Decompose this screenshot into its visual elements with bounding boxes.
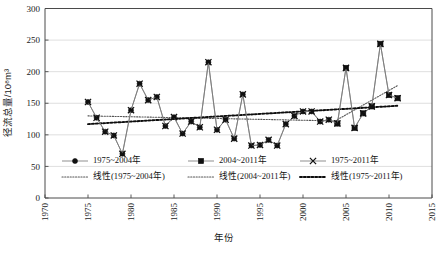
y-tick-label: 250 — [27, 35, 41, 45]
legend-item-label: 线性(1975~2011年) — [331, 170, 403, 181]
x-tick-label: 1975 — [83, 203, 93, 222]
legend-item-label: 线性(1975~2004年) — [93, 170, 165, 181]
series-polyline — [88, 44, 398, 154]
x-tick-label: 1985 — [169, 203, 179, 222]
x-tick-label: 1995 — [255, 203, 265, 222]
x-tick-label: 1990 — [212, 203, 222, 222]
data-point-marker — [73, 159, 78, 164]
y-axis-title: 径流总量/10⁸m³ — [2, 69, 13, 137]
data-series — [85, 41, 401, 157]
chart-legend: 1975~2004年2004~2011年1975~2011年线性(1975~20… — [62, 154, 403, 181]
y-tick-label: 300 — [27, 4, 41, 14]
x-tick-label: 1980 — [126, 203, 136, 222]
trend-line — [88, 106, 398, 124]
chart-canvas: 050100150200250300 197019751980198519901… — [0, 0, 443, 257]
y-tick-label: 100 — [27, 130, 41, 140]
x-tick-label: 2015 — [427, 203, 437, 222]
legend-item-label: 1975~2011年 — [331, 154, 379, 165]
grid-lines — [45, 9, 432, 167]
x-axis-title: 年份 — [214, 232, 234, 243]
x-tick-label: 2000 — [298, 203, 308, 222]
x-tick-label: 1970 — [40, 203, 50, 222]
y-tick-label: 0 — [36, 193, 41, 203]
data-point-marker — [198, 158, 203, 163]
y-tick-label: 50 — [31, 162, 41, 172]
x-tick-label: 2010 — [384, 203, 394, 222]
legend-item-label: 1975~2004年 — [93, 154, 141, 165]
legend-item-label: 线性(2004~2011年) — [219, 170, 291, 181]
legend-item-label: 2004~2011年 — [219, 154, 267, 165]
runoff-line-chart: 050100150200250300 197019751980198519901… — [0, 0, 443, 257]
x-tick-label: 2005 — [341, 203, 351, 222]
y-tick-label: 200 — [27, 67, 41, 77]
series-polyline — [337, 44, 397, 128]
y-tick-label: 150 — [27, 98, 41, 108]
